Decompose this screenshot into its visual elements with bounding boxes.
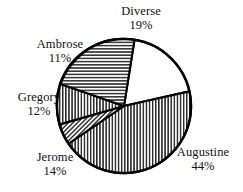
pie-label-ambrose-percent: 11% [22, 51, 98, 65]
pie-label-ambrose: Ambrose 11% [22, 37, 98, 65]
pie-label-gregory-name: Gregory [2, 90, 76, 104]
pie-label-gregory: Gregory 12% [2, 90, 76, 118]
pie-label-ambrose-name: Ambrose [22, 37, 98, 51]
pie-label-jerome: Jerome 14% [18, 150, 92, 178]
pie-label-diverse-percent: 19% [104, 18, 178, 32]
pie-label-diverse-name: Diverse [104, 4, 178, 18]
pie-label-augustine-percent: 44% [163, 159, 243, 173]
pie-label-augustine-name: Augustine [163, 145, 243, 159]
pie-label-jerome-name: Jerome [18, 150, 92, 164]
pie-label-jerome-percent: 14% [18, 164, 92, 178]
pie-chart-figure: Diverse 19% Ambrose 11% Gregory 12% Jero… [0, 0, 243, 192]
pie-label-augustine: Augustine 44% [163, 145, 243, 173]
pie-label-gregory-percent: 12% [2, 104, 76, 118]
pie-label-diverse: Diverse 19% [104, 4, 178, 32]
